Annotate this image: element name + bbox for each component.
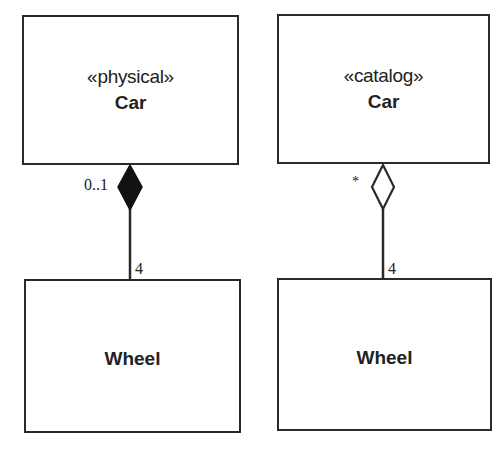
stereotype-label: «physical»: [87, 64, 174, 90]
class-name-label: Car: [368, 89, 400, 115]
filled-diamond-icon: [118, 165, 142, 210]
stereotype-label: «catalog»: [344, 63, 424, 89]
class-name-label: Wheel: [357, 345, 413, 371]
class-name-label: Car: [115, 90, 147, 116]
hollow-diamond-icon: [372, 165, 394, 209]
multiplicity-part-right: 4: [388, 261, 396, 277]
class-wheel-physical[interactable]: Wheel: [24, 279, 241, 433]
multiplicity-whole-left: 0..1: [84, 177, 108, 193]
multiplicity-part-left: 4: [135, 261, 143, 277]
class-catalog-car[interactable]: «catalog» Car: [277, 14, 490, 164]
multiplicity-whole-right: *: [352, 174, 359, 190]
class-physical-car[interactable]: «physical» Car: [22, 15, 239, 165]
class-name-label: Wheel: [105, 346, 161, 372]
class-wheel-catalog[interactable]: Wheel: [277, 278, 492, 431]
